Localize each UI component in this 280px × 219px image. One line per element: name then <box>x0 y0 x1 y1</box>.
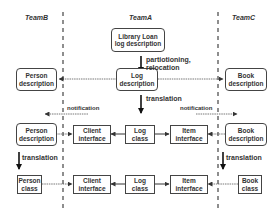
team-a-label: TeamA <box>129 14 152 21</box>
person-description-node-2: Person description <box>16 123 57 146</box>
notification-label-left: notification <box>67 104 99 112</box>
team-c-label: TeamC <box>232 14 255 21</box>
log-class-node: Log class <box>125 125 155 144</box>
partitioning-relocation-label: partiotioning, relocation <box>146 56 191 72</box>
book-class-node: Book class <box>238 175 262 194</box>
translation-label-right: translation <box>226 154 262 162</box>
book-description-node-2: Book description <box>225 123 267 146</box>
client-interface-node-2: Client interface <box>73 175 111 194</box>
item-interface-node-2: Item interface <box>170 175 208 194</box>
collaboration-diagram: TeamB TeamA TeamC Library Loan log descr… <box>0 0 280 219</box>
client-interface-node: Client interface <box>73 125 111 144</box>
translation-label-center: translation <box>146 95 182 103</box>
notification-label-right: notification <box>180 104 212 112</box>
log-class-node-2: Log class <box>125 175 155 194</box>
person-class-node: Person class <box>17 175 42 194</box>
person-description-node: Person description <box>16 68 57 91</box>
translation-label-left: translation <box>22 154 58 162</box>
team-b-label: TeamB <box>25 14 48 21</box>
library-loan-log-description-node: Library Loan log description <box>111 28 165 52</box>
book-description-node: Book description <box>225 68 267 91</box>
item-interface-node: Item interface <box>170 125 208 144</box>
